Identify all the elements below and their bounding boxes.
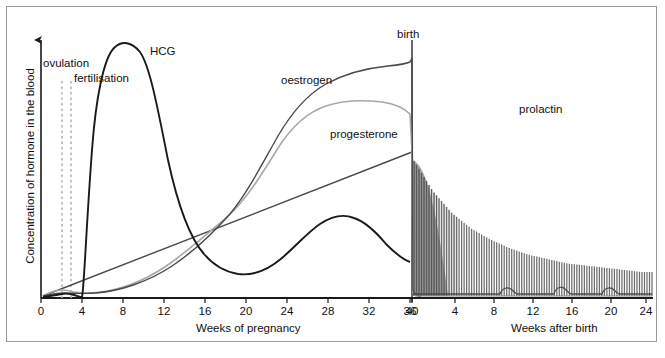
x-tick-pregnancy-32: 32 (357, 305, 381, 317)
x-axis-label-postbirth: Weeks after birth (511, 322, 598, 334)
x-tick-postbirth-24: 24 (634, 305, 658, 317)
birth-label: birth (397, 28, 419, 40)
hcg-label: HCG (150, 45, 176, 57)
x-tick-pregnancy-12: 12 (152, 305, 176, 317)
x-tick-pregnancy-20: 20 (234, 305, 258, 317)
secondary-rising-curve (43, 152, 412, 296)
x-tick-pregnancy-40: 40 (400, 305, 424, 317)
x-tick-pregnancy-0: 0 (29, 305, 53, 317)
x-tick-postbirth-12: 12 (521, 305, 545, 317)
x-tick-postbirth-20: 20 (599, 305, 623, 317)
x-tick-pregnancy-16: 16 (193, 305, 217, 317)
x-tick-pregnancy-8: 8 (111, 305, 135, 317)
oestrogen-curve (43, 58, 421, 296)
fertilisation-label: fertilisation (74, 72, 129, 84)
ovulation-label: ovulation (43, 57, 89, 69)
x-axis-label-pregnancy: Weeks of pregnancy (196, 322, 301, 334)
x-tick-postbirth-8: 8 (482, 305, 506, 317)
progesterone-label: progesterone (330, 128, 398, 140)
hormone-concentration-figure: Concentration of hormone in the blood ov… (0, 0, 665, 358)
prolactin-label: prolactin (519, 103, 562, 115)
x-tick-postbirth-4: 4 (443, 305, 467, 317)
x-tick-pregnancy-4: 4 (70, 305, 94, 317)
x-tick-pregnancy-24: 24 (275, 305, 299, 317)
oestrogen-label: oestrogen (281, 74, 332, 86)
y-axis-label: Concentration of hormone in the blood (24, 41, 36, 291)
prolactin-spike-field (414, 161, 652, 296)
x-tick-postbirth-16: 16 (560, 305, 584, 317)
x-tick-pregnancy-28: 28 (316, 305, 340, 317)
figure-caption (8, 346, 158, 356)
